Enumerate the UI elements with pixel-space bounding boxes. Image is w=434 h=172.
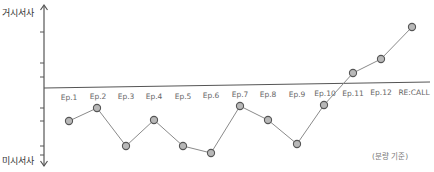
data-point-ep8	[264, 116, 271, 123]
data-point-ep11	[349, 69, 356, 76]
footnote: (분량 기준)	[372, 152, 408, 161]
x-label: Ep.5	[175, 92, 192, 101]
x-label: Ep.11	[342, 89, 364, 98]
x-label: Ep.7	[232, 90, 249, 99]
data-point-ep9	[293, 140, 300, 147]
x-label: Ep.3	[118, 92, 135, 101]
x-label: Ep.9	[289, 90, 306, 99]
x-label: Ep.2	[90, 92, 107, 101]
x-label: Ep.12	[370, 88, 392, 97]
y-axis	[40, 5, 48, 166]
x-axis-labels: Ep.1Ep.2Ep.3Ep.4Ep.5Ep.6Ep.7Ep.8Ep.9Ep.1…	[61, 88, 431, 102]
x-label: Ep.10	[314, 89, 336, 98]
data-point-ep1	[65, 117, 72, 124]
x-label: RE:CALL	[398, 88, 430, 97]
x-label: Ep.6	[203, 91, 220, 100]
narrative-line-chart: 거시서사 미시서사 Ep.1Ep.2Ep.3Ep.4Ep.5Ep.6Ep.7Ep…	[0, 0, 434, 172]
data-point-ep5	[179, 142, 186, 149]
data-point-ep2	[93, 104, 100, 111]
x-label: Ep.1	[61, 93, 78, 102]
data-point-ep4	[150, 116, 157, 123]
data-point-ep12	[377, 55, 384, 62]
data-point-recall	[408, 23, 415, 30]
y-label-bottom: 미시서사	[2, 156, 35, 166]
data-point-ep7	[236, 102, 243, 109]
data-point-ep6	[207, 149, 214, 156]
data-point-ep10	[320, 101, 327, 108]
data-point-ep3	[122, 142, 129, 149]
x-label: Ep.8	[260, 90, 277, 99]
x-label: Ep.4	[146, 92, 163, 101]
y-label-top: 거시서사	[2, 8, 35, 18]
